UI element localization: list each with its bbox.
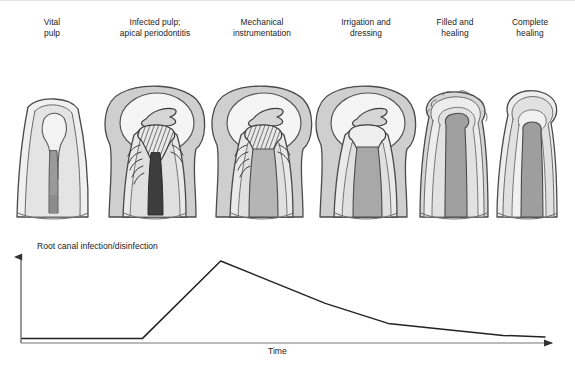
- stage-label-infected-pulp: Infected pulp; apical periodontitis: [105, 17, 205, 39]
- root-filling: [521, 122, 543, 217]
- tooth-filled-healing: [420, 91, 488, 219]
- tooth-mechanical-instrumentation: [212, 86, 312, 219]
- root-filling: [445, 113, 469, 217]
- tooth-irrigation-dressing: [316, 86, 416, 219]
- stage-label-irrigation-dressing: Irrigation and dressing: [318, 17, 414, 39]
- tooth-infected-pulp: [105, 86, 205, 219]
- stage-label-complete-healing: Complete healing: [490, 17, 570, 39]
- endodontic-stages-figure: Vital pulp Infected pulp; apical periodo…: [0, 0, 575, 369]
- necrotic-canal: [148, 153, 163, 215]
- stage-label-vital-pulp: Vital pulp: [12, 17, 92, 39]
- stage-label-mechanical-instrumentation: Mechanical instrumentation: [212, 17, 312, 39]
- instrumented-canal: [249, 149, 278, 217]
- infection-disinfection-curve: [22, 261, 545, 339]
- infection-disinfection-chart: [0, 233, 575, 369]
- canal-dressing: [353, 147, 382, 217]
- tooth-illustration-row: [0, 45, 575, 227]
- tooth-complete-healing: [497, 91, 557, 219]
- stage-label-filled-healing: Filled and healing: [415, 17, 495, 39]
- tooth-vital-pulp: [17, 99, 88, 219]
